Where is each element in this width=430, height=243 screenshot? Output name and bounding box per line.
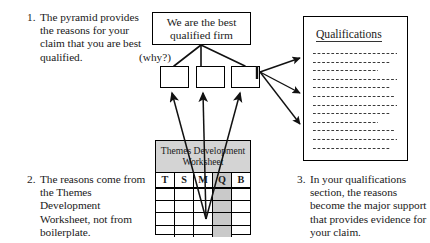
cell-t	[156, 201, 175, 212]
reason-box-3	[231, 66, 260, 88]
text-line	[313, 62, 391, 63]
note-item-3: 3. In your qualifications section, the r…	[297, 173, 430, 239]
column-header-m: M	[194, 173, 213, 187]
cell-b	[232, 201, 250, 212]
cell-q	[213, 201, 232, 212]
column-header-q: Q	[213, 173, 232, 187]
note-text: The pyramid provides the reasons for you…	[40, 11, 145, 64]
text-line	[313, 130, 395, 131]
text-line	[313, 87, 391, 88]
cell-s	[175, 213, 194, 224]
text-line	[313, 79, 397, 80]
text-line	[313, 96, 395, 97]
cell-s	[175, 201, 194, 212]
claim-box: We are the best qualified firm	[152, 12, 251, 45]
reason-box-1	[160, 66, 189, 88]
bracket-to-qualifications-arrows	[260, 58, 300, 124]
column-header-s: S	[175, 173, 194, 187]
text-line	[313, 148, 391, 149]
themes-development-worksheet: Themes Development Worksheet T S M Q B	[155, 140, 251, 235]
why-label: (why?)	[139, 51, 171, 64]
worksheet-title: Themes Development Worksheet	[156, 141, 250, 173]
arrow-to-qual-top	[260, 58, 300, 72]
qualifications-title: Qualifications	[316, 28, 382, 42]
text-line	[313, 70, 378, 71]
text-line	[313, 122, 378, 123]
worksheet-row	[156, 212, 250, 224]
text-line	[313, 105, 397, 106]
arrow-to-qual-bottom	[260, 72, 300, 124]
text-line	[313, 139, 397, 140]
claim-text: We are the best qualified firm	[153, 16, 250, 42]
cell-m	[194, 189, 213, 200]
cell-b	[232, 189, 250, 200]
cell-q	[213, 189, 232, 200]
diagram-canvas: 1. The pyramid provides the reasons for …	[0, 0, 430, 243]
cell-s	[175, 226, 194, 237]
cell-b	[232, 213, 250, 224]
note-item-1: 1. The pyramid provides the reasons for …	[27, 11, 145, 64]
pyramid-leg-left	[174, 45, 201, 66]
cell-q	[213, 213, 232, 224]
cell-s	[175, 189, 194, 200]
qualifications-document: Qualifications	[303, 16, 408, 161]
worksheet-header-row: T S M Q B	[156, 173, 250, 188]
pyramid-connector-lines	[174, 45, 245, 66]
arrow-to-qual-middle	[260, 72, 300, 93]
cell-t	[156, 226, 175, 237]
cell-b	[232, 226, 250, 237]
cell-m	[194, 226, 213, 237]
qualifications-text-lines	[313, 53, 397, 156]
cell-t	[156, 189, 175, 200]
worksheet-row	[156, 225, 250, 237]
note-text: The reasons come from the Themes Develop…	[40, 173, 147, 239]
pyramid-leg-right	[201, 45, 245, 66]
cell-m	[194, 213, 213, 224]
cell-q	[213, 226, 232, 237]
note-item-2: 2. The reasons come from the Themes Deve…	[27, 173, 147, 239]
cell-m	[194, 201, 213, 212]
note-number: 2.	[27, 173, 40, 186]
reason-box-2	[196, 66, 225, 88]
note-text: In your qualifications section, the reas…	[310, 173, 430, 239]
worksheet-row	[156, 200, 250, 212]
text-line	[313, 113, 391, 114]
column-header-b: B	[232, 173, 250, 187]
cell-t	[156, 213, 175, 224]
note-number: 1.	[27, 11, 40, 24]
note-number: 3.	[297, 173, 310, 186]
worksheet-row	[156, 188, 250, 200]
text-line	[313, 53, 397, 54]
column-header-t: T	[156, 173, 175, 187]
